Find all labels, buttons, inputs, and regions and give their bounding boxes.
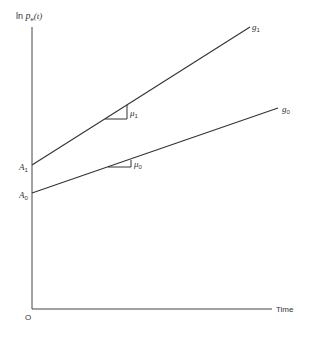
line-g0	[32, 108, 278, 193]
y-axis-label: ln pe(t)	[16, 10, 42, 22]
line-g1-label: g1	[252, 22, 261, 33]
line-g1	[32, 27, 250, 165]
slope-mu0-label: μ0	[133, 159, 143, 170]
intercept-a1-label: A1	[18, 162, 29, 173]
growth-diagram: ln pe(t) Time O g1 g0 A1 A0 μ1 μ0	[0, 0, 312, 339]
origin-label: O	[25, 313, 31, 322]
line-g0-label: g0	[282, 104, 291, 115]
slope-mu1-label: μ1	[129, 108, 139, 119]
x-axis-label: Time	[276, 305, 294, 314]
intercept-a0-label: A0	[18, 190, 29, 201]
